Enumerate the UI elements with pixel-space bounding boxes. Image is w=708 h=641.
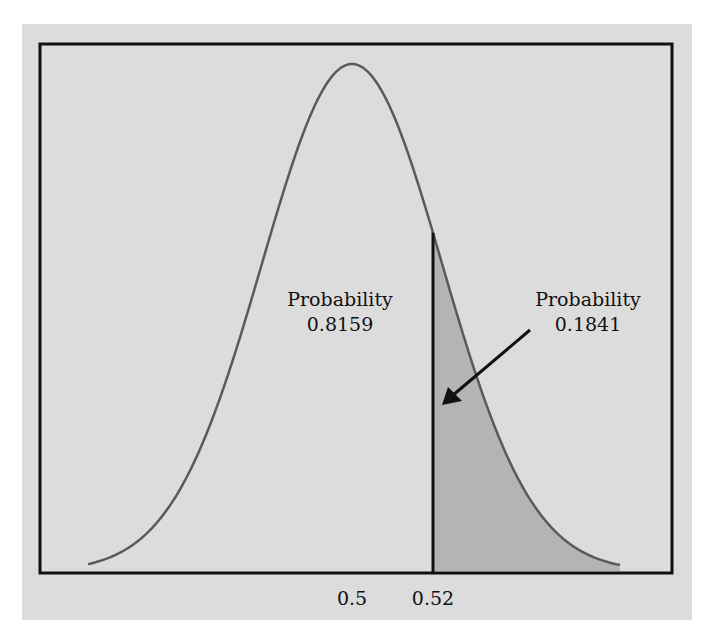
x-tick-cutoff: 0.52	[412, 587, 454, 609]
right-prob-title: Probability	[535, 288, 641, 310]
right-prob-value: 0.1841	[555, 313, 621, 335]
shaded-tail-region	[433, 233, 620, 571]
normal-distribution-chart: Probability 0.8159 Probability 0.1841 0.…	[0, 0, 708, 641]
x-tick-mean: 0.5	[337, 587, 367, 609]
left-prob-title: Probability	[287, 288, 393, 310]
left-prob-value: 0.8159	[307, 313, 373, 335]
